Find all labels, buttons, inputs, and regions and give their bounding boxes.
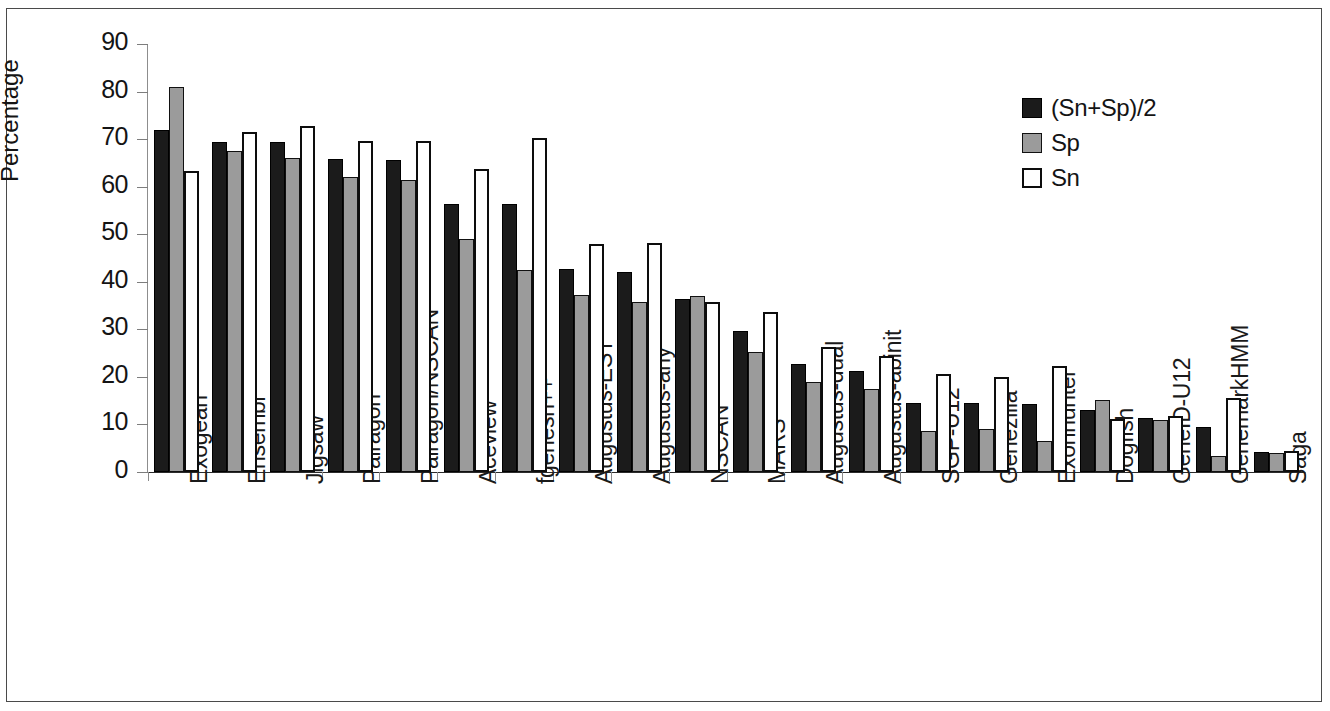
bar: [459, 239, 474, 472]
bar-group: [328, 44, 373, 472]
legend-item-sp: Sp: [1022, 125, 1156, 160]
bar: [574, 295, 589, 472]
bar: [227, 151, 242, 472]
y-tick-label: 90: [101, 27, 128, 56]
y-tick-label: 60: [101, 170, 128, 199]
legend-label: Sp: [1051, 129, 1080, 157]
bar: [154, 130, 169, 472]
y-tick-label: 20: [101, 360, 128, 389]
bar: [906, 403, 921, 472]
bar: [328, 159, 343, 472]
bar: [1153, 420, 1168, 472]
bar: [1269, 453, 1284, 472]
bar: [806, 382, 821, 472]
y-tick-mark: [137, 234, 148, 235]
bar: [416, 141, 431, 472]
y-tick-label: 30: [101, 312, 128, 341]
bar: [1022, 404, 1037, 472]
bar: [994, 377, 1009, 472]
bar: [647, 243, 662, 472]
bar: [343, 177, 358, 472]
bar: [1226, 398, 1241, 472]
bar-group: [154, 44, 199, 472]
y-tick-mark: [137, 377, 148, 378]
bar-group: [444, 44, 489, 472]
bar-chart-figure: Percentage 9080706050403020100 ExogeanEn…: [0, 0, 1330, 711]
bar: [1211, 456, 1226, 472]
bar-group: [270, 44, 315, 472]
y-tick-mark: [137, 139, 148, 140]
bar: [964, 403, 979, 472]
bar: [733, 331, 748, 472]
bar: [444, 204, 459, 472]
bar: [675, 299, 690, 472]
bar: [864, 389, 879, 472]
bar-group: [1196, 44, 1241, 472]
y-tick-label: 10: [101, 407, 128, 436]
legend-item-sn: Sn: [1022, 160, 1156, 195]
bar-group: [386, 44, 431, 472]
bar: [502, 204, 517, 472]
legend-item-snsp2: (Sn+Sp)/2: [1022, 90, 1156, 125]
bar: [1254, 452, 1269, 472]
bar: [184, 171, 199, 472]
bar: [270, 142, 285, 472]
bar: [474, 169, 489, 472]
x-tick-mark: [148, 472, 149, 481]
bar: [169, 87, 184, 472]
bar: [1052, 366, 1067, 472]
y-axis-title: Percentage: [0, 59, 24, 182]
bar: [617, 272, 632, 472]
bar: [748, 352, 763, 472]
y-tick-label: 40: [101, 265, 128, 294]
bar-group: [791, 44, 836, 472]
bar-group: [906, 44, 951, 472]
bar: [979, 429, 994, 472]
bar: [821, 347, 836, 472]
bar-group: [502, 44, 547, 472]
bar: [285, 158, 300, 472]
y-tick-mark: [137, 329, 148, 330]
bar: [532, 138, 547, 472]
y-tick-label: 80: [101, 75, 128, 104]
bar-group: [733, 44, 778, 472]
bar: [849, 371, 864, 472]
chart-legend: (Sn+Sp)/2 Sp Sn: [1022, 90, 1156, 195]
bar: [1138, 418, 1153, 472]
y-tick-mark: [137, 187, 148, 188]
bar: [1095, 400, 1110, 472]
bar: [517, 270, 532, 472]
y-tick-label: 70: [101, 122, 128, 151]
bar: [1110, 419, 1125, 472]
gray-filled-swatch: [1022, 133, 1042, 153]
y-tick-label: 0: [115, 455, 128, 484]
y-tick-mark: [137, 92, 148, 93]
y-tick-mark: [137, 424, 148, 425]
bar: [1037, 441, 1052, 472]
bar: [690, 296, 705, 472]
bar-group: [675, 44, 720, 472]
bar: [1284, 451, 1299, 472]
bar-group: [212, 44, 257, 472]
bar: [763, 312, 778, 472]
bar-group: [617, 44, 662, 472]
bar: [386, 160, 401, 472]
bar: [791, 364, 806, 472]
bar: [632, 302, 647, 472]
bar: [401, 180, 416, 472]
bar-group: [1254, 44, 1299, 472]
bar: [1168, 416, 1183, 472]
legend-label: (Sn+Sp)/2: [1051, 94, 1156, 122]
legend-label: Sn: [1051, 164, 1080, 192]
bar-group: [849, 44, 894, 472]
bar: [242, 132, 257, 472]
bar: [559, 269, 574, 472]
y-tick-mark: [137, 44, 148, 45]
bar: [358, 141, 373, 472]
y-tick-mark: [137, 472, 148, 473]
bar: [1080, 410, 1095, 472]
bar: [300, 126, 315, 472]
white-outlined-swatch: [1022, 168, 1042, 188]
y-tick-label: 50: [101, 217, 128, 246]
bar: [879, 356, 894, 473]
